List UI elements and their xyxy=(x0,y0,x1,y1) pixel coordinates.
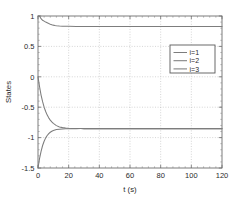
x-tick-label: 60 xyxy=(126,171,134,180)
y-tick-label: 0 xyxy=(30,73,34,82)
legend-label-i=3: i=3 xyxy=(190,66,200,73)
y-tick-labels: 10.50-0.5-1-1.5 xyxy=(22,12,35,173)
gridlines xyxy=(38,16,222,168)
y-axis-title: States xyxy=(4,81,13,103)
legend[interactable]: i=1i=2i=3 xyxy=(170,45,215,73)
x-tick-label: 100 xyxy=(185,171,198,180)
y-tick-label: -0.5 xyxy=(22,103,35,112)
y-tick-label: 0.5 xyxy=(24,42,34,51)
legend-label-i=1: i=1 xyxy=(190,49,200,56)
y-tick-label: -1.5 xyxy=(22,164,35,173)
x-tick-label: 0 xyxy=(36,171,40,180)
y-tick-label: -1 xyxy=(28,133,35,142)
line-chart: 020406080100120 10.50-0.5-1-1.5 t (s) St… xyxy=(0,0,240,198)
x-axis-title: t (s) xyxy=(123,185,137,194)
y-tick-label: 1 xyxy=(30,12,34,21)
x-tick-label: 20 xyxy=(64,171,72,180)
x-tick-label: 80 xyxy=(156,171,164,180)
legend-label-i=2: i=2 xyxy=(190,57,200,64)
x-tick-labels: 020406080100120 xyxy=(36,171,228,180)
x-tick-label: 120 xyxy=(216,171,229,180)
figure-container: 020406080100120 10.50-0.5-1-1.5 t (s) St… xyxy=(0,0,240,198)
x-tick-label: 40 xyxy=(95,171,103,180)
